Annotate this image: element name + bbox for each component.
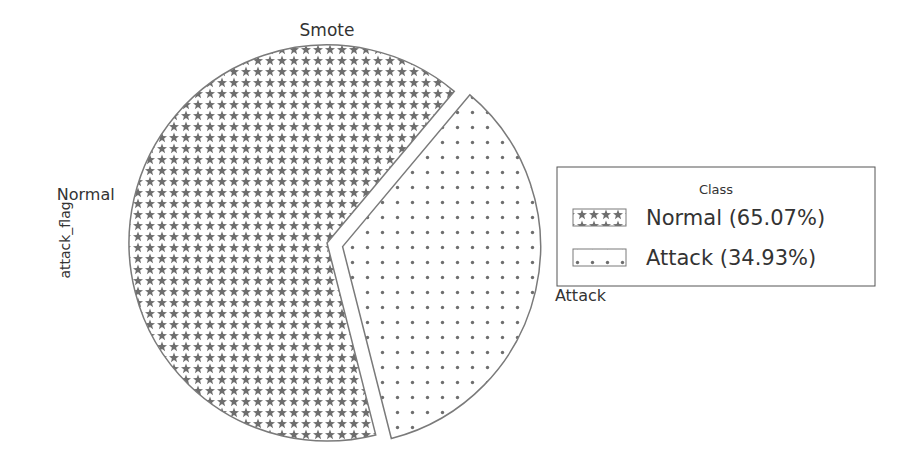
legend-swatch-attack [573,249,626,266]
slice-label-attack: Attack [555,286,607,305]
pie-slices [129,45,541,441]
pie-chart: Smote NormalAttack attack_flag Class Nor… [0,0,920,463]
legend-title: Class [699,182,733,197]
legend: Class Normal (65.07%)Attack (34.93%) [557,167,875,286]
legend-swatch-normal [573,209,626,226]
y-axis-label: attack_flag [57,201,73,278]
chart-title: Smote [300,20,355,40]
legend-label-attack: Attack (34.93%) [646,246,816,270]
legend-label-normal: Normal (65.07%) [646,206,825,230]
